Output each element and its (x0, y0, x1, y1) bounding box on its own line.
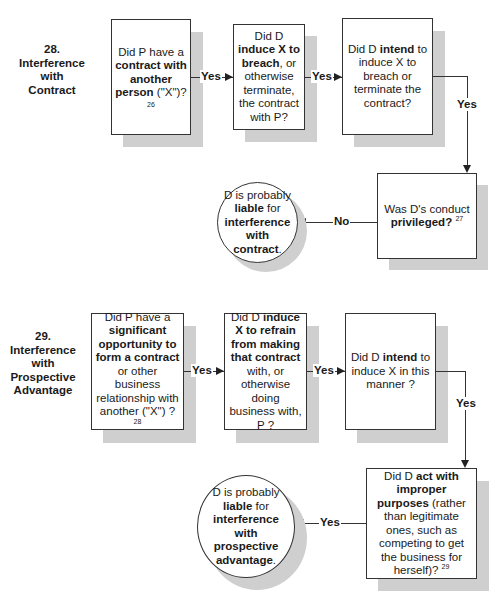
footnote-ref: 26 (115, 100, 187, 109)
text: ("X")? (154, 86, 187, 98)
title-line: Interference (0, 344, 86, 358)
arrow-right-icon (337, 367, 345, 375)
text: Did P have a (105, 311, 171, 323)
bold-text: intend (380, 43, 415, 55)
bold-text: liable (223, 500, 252, 512)
edge-label-no: No (333, 215, 350, 228)
bold-text: significant opportunity to form a contra… (96, 324, 180, 363)
footnote-ref: 27 (455, 215, 463, 222)
arrow-right-icon (225, 73, 233, 81)
footnote-ref: 28 (134, 418, 142, 425)
question-box-privileged: Was D's conduct privileged? 27 (377, 173, 477, 259)
arrow-down-icon (461, 460, 469, 468)
question-box-intent-manner: Did D intend to induce X in this manner … (345, 313, 436, 430)
text: . (273, 554, 276, 566)
edge-label-yes: Yes (319, 516, 341, 529)
section-number: 28. (4, 43, 100, 57)
question-box-contract-exists: Did P have a contract with another perso… (111, 19, 191, 135)
question-box-induce-refrain: Did D induce X to refrain from making th… (224, 313, 307, 430)
title-line: Interference (4, 57, 100, 71)
text: Did D (255, 30, 284, 42)
text: or other business relationship with anot… (96, 365, 178, 418)
text: Did D (348, 43, 380, 55)
edge-label-yes: Yes (455, 397, 477, 410)
arrow-down-icon (463, 165, 471, 173)
title-line: Prospective (0, 371, 86, 385)
edge-label-yes: Yes (311, 70, 333, 83)
edge-label-yes: Yes (200, 70, 222, 83)
arrow-right-icon (216, 367, 224, 375)
bold-text: interference with prospective advantage (213, 513, 279, 566)
title-line: Advantage (0, 384, 86, 398)
connector (433, 76, 467, 77)
edge-label-yes: Yes (191, 364, 213, 377)
question-box-induce-breach: Did D induce X to breach, or otherwise t… (233, 24, 305, 130)
title-line: with (4, 70, 100, 84)
text: with, or otherwise doing business with, … (229, 365, 301, 431)
text: for (252, 500, 269, 512)
arrow-right-icon (334, 73, 342, 81)
result-liable-interference-prospective: D is probably liable for interference wi… (197, 475, 295, 578)
question-box-intent: Did D intend to induce X to breach or te… (342, 18, 433, 135)
edge-label-yes: Yes (313, 364, 335, 377)
text: Did D (231, 311, 263, 323)
question-box-opportunity: Did P have a significant opportunity to … (91, 313, 184, 430)
text: Did P have a (118, 46, 184, 58)
text: Did D (384, 470, 416, 482)
connector (436, 371, 465, 372)
section-number: 29. (0, 330, 86, 344)
edge-label-yes: Yes (456, 98, 478, 111)
text: Was D's conduct (384, 203, 470, 215)
title-line: Contract (4, 84, 100, 98)
text: Did D (351, 351, 383, 363)
text: D is probably (224, 189, 291, 201)
text: for (264, 202, 281, 214)
section-28-title: 28. Interference with Contract (4, 43, 100, 97)
footnote-ref: 29 (442, 563, 450, 570)
text: . (279, 243, 282, 255)
question-box-improper-purposes: Did D act with improper purposes (rather… (366, 468, 477, 579)
bold-text: liable (234, 202, 263, 214)
connector (467, 76, 468, 166)
text: D is probably (212, 486, 279, 498)
bold-text: intend (383, 351, 418, 363)
bold-text: ? (445, 216, 452, 228)
connector (465, 371, 466, 461)
bold-text: privileged (391, 216, 445, 228)
result-liable-interference-contract: D is probably liable for interference wi… (217, 182, 298, 263)
section-29-title: 29. Interference with Prospective Advant… (0, 330, 86, 398)
title-line: with (0, 357, 86, 371)
